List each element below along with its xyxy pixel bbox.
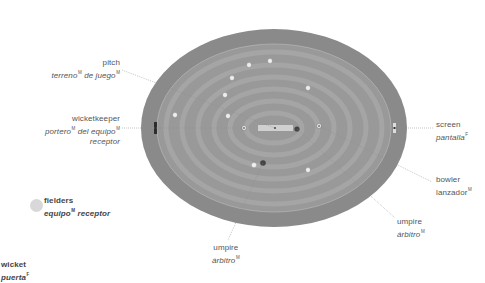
label-wicketkeeper-es-line2: receptor <box>45 137 120 147</box>
label-bowler-en: bowler <box>436 175 472 185</box>
label-screen: screen pantallaF <box>436 120 468 143</box>
label-wicket: wicket puertaF <box>1 260 29 283</box>
label-bowler-es: lanzadorM <box>436 185 472 198</box>
label-pitch-en: pitch <box>51 58 120 68</box>
label-pitch: pitch terrenoM de juegoM <box>51 58 120 81</box>
label-umpire-bottom-es: árbitroM <box>212 253 240 266</box>
label-fielders: fielders equipoM receptor <box>44 196 110 219</box>
label-wicket-es: puertaF <box>1 270 29 283</box>
label-wicket-en: wicket <box>1 260 29 270</box>
label-fielders-es: equipoM receptor <box>44 206 110 219</box>
label-screen-es: pantallaF <box>436 130 468 143</box>
label-umpire-bottom: umpire árbitroM <box>212 243 240 266</box>
label-wicketkeeper-en: wicketkeeper <box>45 114 120 124</box>
label-fielders-en: fielders <box>44 196 110 206</box>
label-wicketkeeper-es: porteroM del equipoM <box>45 124 120 137</box>
label-wicketkeeper: wicketkeeper porteroM del equipoM recept… <box>45 114 120 147</box>
label-screen-en: screen <box>436 120 468 130</box>
label-pitch-es: terrenoM de juegoM <box>51 68 120 81</box>
label-bowler: bowler lanzadorM <box>436 175 472 198</box>
label-umpire-right-es: árbitroM <box>397 227 425 240</box>
label-umpire-bottom-en: umpire <box>212 243 240 253</box>
label-umpire-right: umpire árbitroM <box>397 217 425 240</box>
fielders-legend-dot <box>30 199 43 212</box>
label-umpire-right-en: umpire <box>397 217 425 227</box>
